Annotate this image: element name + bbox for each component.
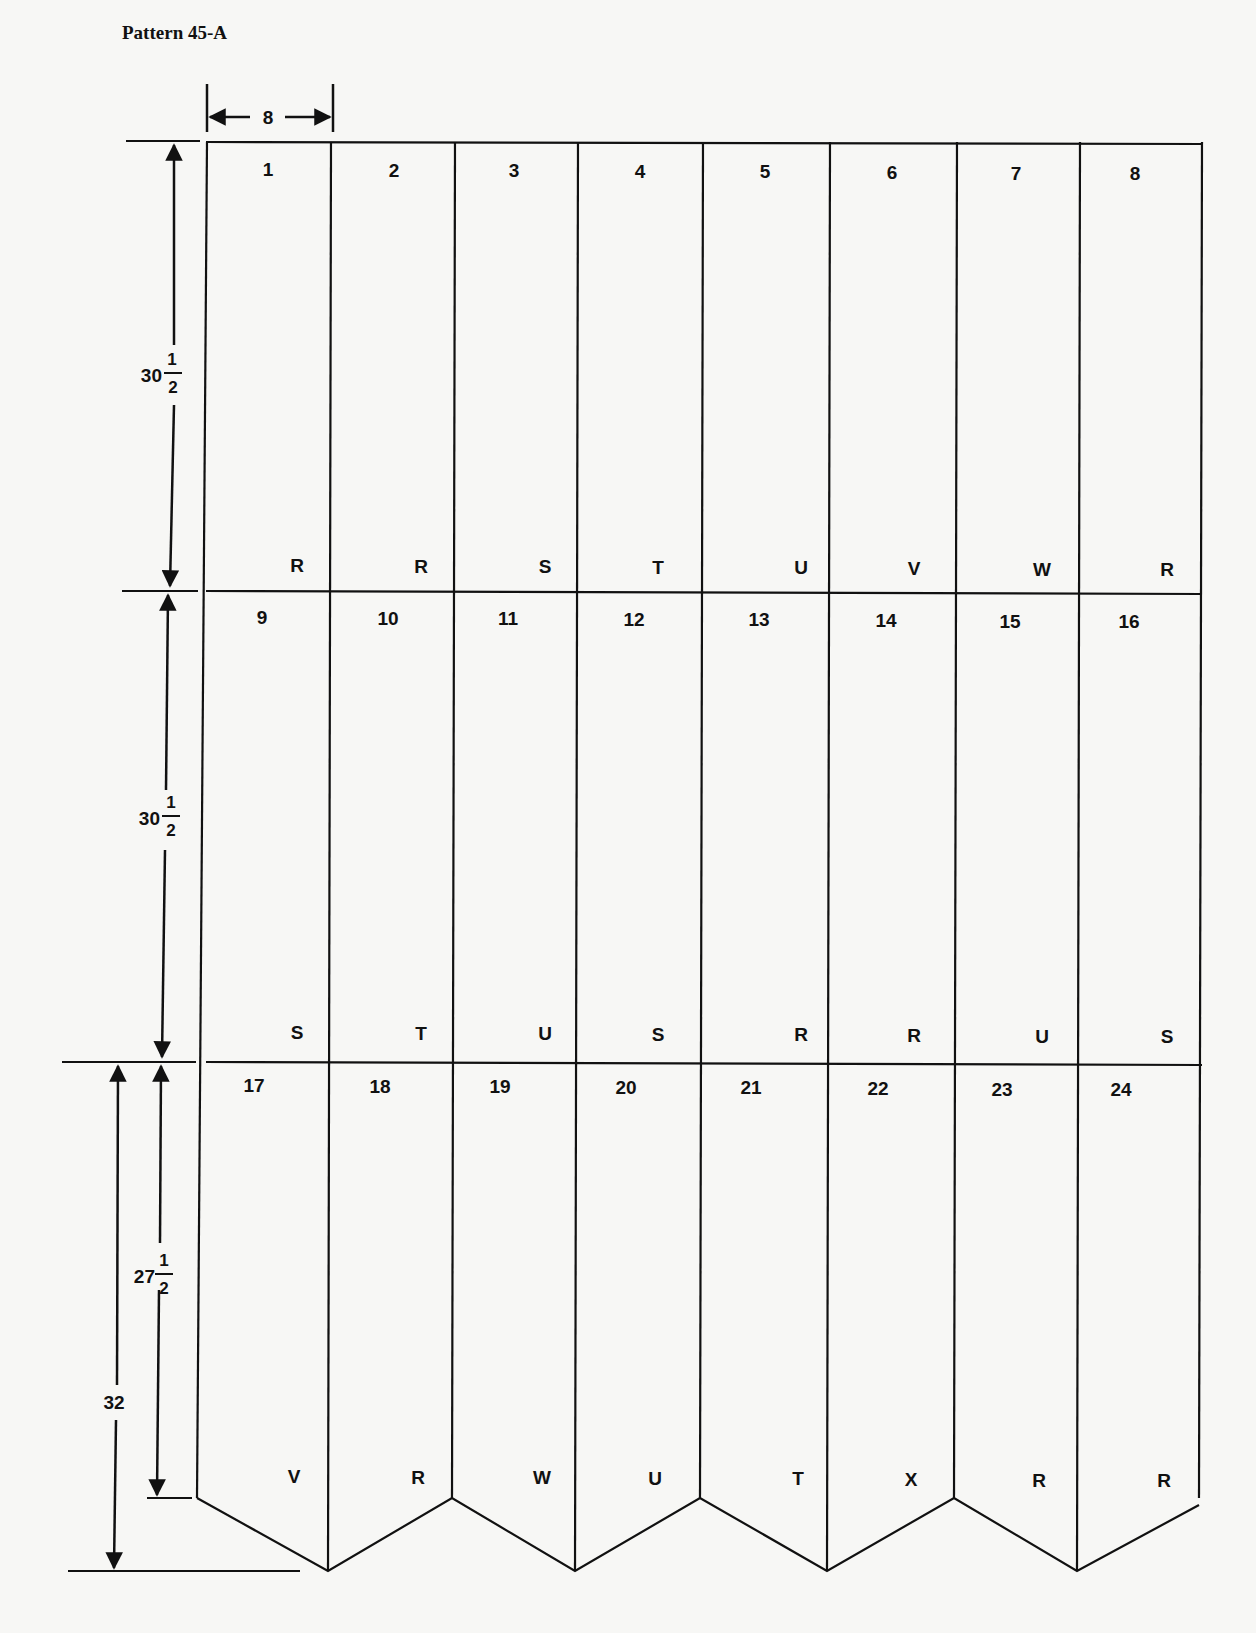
panel-number: 19 xyxy=(489,1076,510,1097)
width-dimension: 8 xyxy=(263,107,274,128)
pattern-diagram: 1R2R3S4T5U6V7W8R9S10T11U12S13R14R15U16S1… xyxy=(0,0,1256,1633)
panel-number: 5 xyxy=(760,161,771,182)
panel-number: 14 xyxy=(875,610,897,631)
panel-number: 21 xyxy=(740,1077,762,1098)
row1-height-whole: 30 xyxy=(141,365,162,386)
seam-label: U xyxy=(648,1468,662,1489)
panel-number: 13 xyxy=(748,609,769,630)
panel-number: 22 xyxy=(867,1078,888,1099)
row3-height-whole: 27 xyxy=(134,1266,155,1287)
svg-text:1: 1 xyxy=(166,793,175,812)
panel-grid xyxy=(197,142,1202,1571)
panel-number: 3 xyxy=(509,160,520,181)
svg-text:2: 2 xyxy=(166,821,175,840)
panel-number: 10 xyxy=(377,608,398,629)
seam-label: T xyxy=(415,1023,427,1044)
seam-label: R xyxy=(1160,559,1174,580)
panel-number: 17 xyxy=(243,1075,264,1096)
svg-text:1: 1 xyxy=(167,350,176,369)
seam-label: R xyxy=(907,1025,921,1046)
svg-text:2: 2 xyxy=(168,378,177,397)
seam-label: R xyxy=(414,556,428,577)
panel-number: 12 xyxy=(623,609,644,630)
seam-label: U xyxy=(1035,1026,1049,1047)
seam-label: U xyxy=(794,557,808,578)
seam-label: R xyxy=(794,1024,808,1045)
seam-label: R xyxy=(1032,1470,1046,1491)
panel-number: 24 xyxy=(1110,1079,1132,1100)
seam-label: X xyxy=(905,1469,918,1490)
seam-label: R xyxy=(411,1467,425,1488)
seam-label: S xyxy=(652,1024,665,1045)
panel-labels: 1R2R3S4T5U6V7W8R9S10T11U12S13R14R15U16S1… xyxy=(243,159,1174,1491)
panel-number: 15 xyxy=(999,611,1021,632)
svg-text:1: 1 xyxy=(159,1251,168,1270)
panel-number: 23 xyxy=(991,1079,1012,1100)
panel-number: 8 xyxy=(1130,163,1141,184)
row2-height-whole: 30 xyxy=(139,808,160,829)
panel-number: 16 xyxy=(1118,611,1139,632)
panel-number: 2 xyxy=(389,160,400,181)
seam-label: U xyxy=(538,1023,552,1044)
panel-number: 20 xyxy=(615,1077,636,1098)
seam-label: V xyxy=(908,558,921,579)
seam-label: R xyxy=(1157,1470,1171,1491)
seam-label: S xyxy=(1161,1026,1174,1047)
seam-label: R xyxy=(290,555,304,576)
seam-label: W xyxy=(533,1467,551,1488)
panel-number: 1 xyxy=(263,159,274,180)
seam-label: W xyxy=(1033,559,1051,580)
panel-number: 11 xyxy=(498,608,519,629)
panel-number: 18 xyxy=(369,1076,390,1097)
seam-label: T xyxy=(652,557,664,578)
panel-number: 9 xyxy=(257,607,268,628)
panel-number: 6 xyxy=(887,162,898,183)
seam-label: S xyxy=(539,556,552,577)
panel-number: 4 xyxy=(635,161,646,182)
panel-number: 7 xyxy=(1011,163,1022,184)
seam-label: S xyxy=(291,1022,304,1043)
total-point-height: 32 xyxy=(103,1392,124,1413)
seam-label: V xyxy=(288,1466,301,1487)
svg-text:2: 2 xyxy=(159,1279,168,1298)
seam-label: T xyxy=(792,1468,804,1489)
